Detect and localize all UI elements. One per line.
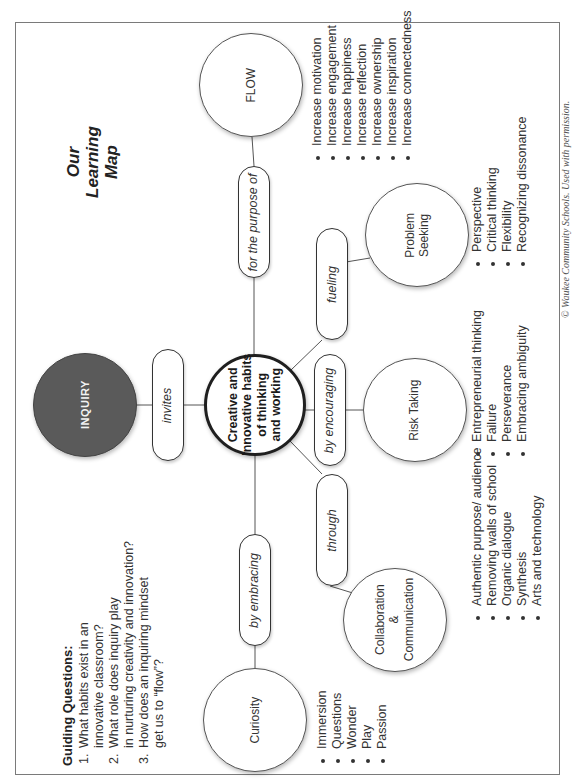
list-item: Failure (485, 310, 500, 458)
connector-through-label: through (325, 509, 340, 551)
list-item: Removing walls of school (485, 448, 500, 622)
list-item: Authentic purpose/ audience (470, 448, 485, 622)
list-item: Perseverance (500, 310, 515, 458)
node-inquiry: INQUIRY (33, 353, 137, 457)
node-flow: FLOW (199, 33, 303, 137)
list-item: Synthesis (515, 448, 530, 622)
list-item: Embracing ambiguity (515, 310, 530, 458)
list-item: Perspective (470, 116, 485, 268)
node-flow-label: FLOW (244, 68, 258, 103)
guiding-question: 1. What habits exist in an innovative cl… (77, 541, 107, 766)
list-item: Questions (330, 691, 345, 765)
node-inquiry-label: INQUIRY (78, 381, 91, 430)
list-item: Increase happiness (340, 10, 355, 162)
node-collaboration: Collaboration & Communication (343, 568, 447, 672)
list-item: Critical thinking (485, 116, 500, 268)
list-item: Increase reflection (355, 10, 370, 162)
node-curiosity-label: Curiosity (248, 697, 262, 744)
list-item: Increase engagement (325, 10, 340, 162)
connector-for-the-purpose-of: for the purpose of (238, 166, 270, 278)
connector-by-encouraging-label: by encouraging (323, 367, 338, 452)
node-risk-taking-label: Risk Taking (408, 379, 422, 440)
list-curiosity: Immersion Questions Wonder Play Passion (315, 691, 390, 765)
list-collaboration: Authentic purpose/ audience Removing wal… (470, 448, 545, 622)
guiding-question: 3. How does an inquiring mindset get us … (137, 541, 167, 766)
list-item: Passion (375, 691, 390, 765)
connector-invites-label: invites (161, 387, 176, 422)
node-problem-seeking: Problem Seeking (365, 183, 469, 287)
node-center: Creative and Innovative habits of thinki… (204, 354, 306, 456)
list-item: Wonder (345, 691, 360, 765)
guiding-question: 2. What role does inquiry play in nurtur… (107, 541, 137, 766)
collaboration-label-line: Collaboration (373, 578, 387, 661)
center-label-line: Creative and (226, 354, 240, 456)
list-item: Increase connectedness (400, 10, 415, 162)
list-item: Increase inspiration (385, 10, 400, 162)
node-curiosity: Curiosity (203, 668, 307, 772)
list-item: Increase motivation (310, 10, 325, 162)
title-line: Map (102, 126, 121, 198)
list-problem-seeking: Perspective Critical thinking Flexibilit… (470, 116, 530, 268)
list-risk-taking: Entrepreneurial thinking Failure Perseve… (470, 310, 530, 458)
connector-by-embracing: by embracing (239, 534, 271, 646)
connector-fueling-label: fueling (325, 266, 340, 303)
connector-by-encouraging: by encouraging (314, 354, 346, 466)
list-item: Flexibility (500, 116, 515, 268)
connector-invites: invites (152, 349, 184, 461)
list-item: Play (360, 691, 375, 765)
list-item: Immersion (315, 691, 330, 765)
guiding-questions-title: Guiding Questions: (60, 541, 75, 766)
list-item: Recognizing dissonance (515, 116, 530, 268)
connector-through: through (316, 474, 348, 586)
title-line: Learning (83, 126, 102, 198)
node-risk-taking: Risk Taking (363, 358, 467, 462)
list-flow: Increase motivation Increase engagement … (310, 10, 415, 162)
center-label-line: Innovative habits (241, 354, 255, 456)
center-label-line: of thinking (255, 354, 269, 456)
collaboration-label-line: & (388, 578, 402, 661)
center-label-line: and working (269, 354, 283, 456)
title-line: Our (64, 126, 83, 198)
list-item: Organic dialogue (500, 448, 515, 622)
guiding-questions: Guiding Questions: 1. What habits exist … (60, 541, 167, 766)
connector-by-embracing-label: by embracing (248, 552, 263, 627)
connector-fueling: fueling (316, 228, 348, 340)
connector-for-the-purpose-of-label: for the purpose of (247, 173, 262, 271)
problem-seeking-label-line: Seeking (417, 213, 431, 258)
list-item: Arts and technology (530, 448, 545, 622)
map-title: Our Learning Map (64, 126, 121, 198)
list-item: Increase ownership (370, 10, 385, 162)
copyright-notice: © Waukee Community Schools. Used with pe… (560, 101, 571, 318)
collaboration-label-line: Communication (402, 578, 416, 661)
list-item: Entrepreneurial thinking (470, 310, 485, 458)
problem-seeking-label-line: Problem (403, 213, 417, 258)
